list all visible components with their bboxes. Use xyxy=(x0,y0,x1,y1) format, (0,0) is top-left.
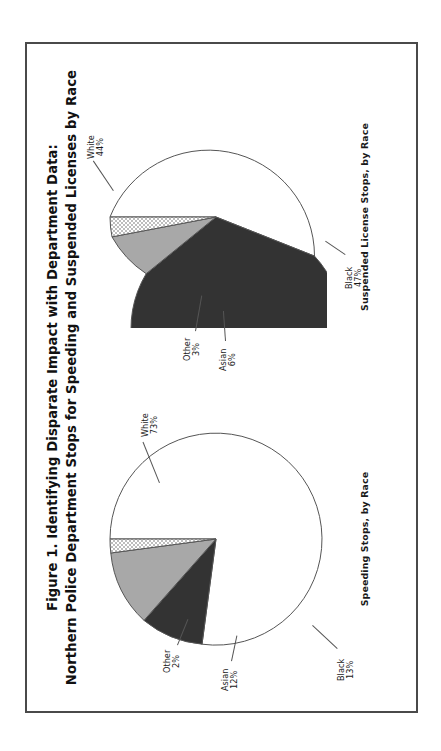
pie-chart-speeding xyxy=(105,428,327,650)
figure-title: Figure 1. Identifying Disparate Impact w… xyxy=(43,44,81,711)
pie-label-white-speeding: White 73% xyxy=(141,413,159,437)
pie-label-asian-suspended: Asian 6% xyxy=(219,349,237,371)
pie-label-asian-speeding: Asian 12% xyxy=(221,669,239,691)
figure-title-line-2: Northern Police Department Stops for Spe… xyxy=(62,44,81,711)
figure-content: Figure 1. Identifying Disparate Impact w… xyxy=(27,44,416,711)
figure-frame: Figure 1. Identifying Disparate Impact w… xyxy=(25,42,418,713)
chart-caption-speeding: Speeding Stops, by Race xyxy=(359,389,370,689)
chart-caption-suspended: Suspended License Stops, by Race xyxy=(359,67,370,367)
chart-suspended-license-stops: White 44% Black 47% Asian 6% Other 3% Su… xyxy=(101,67,401,367)
pie-label-black-speeding: Black 13% xyxy=(337,659,355,681)
figure-title-line-1: Figure 1. Identifying Disparate Impact w… xyxy=(43,44,62,711)
pie-label-white-suspended: White 44% xyxy=(87,135,105,159)
pie-label-other-speeding: Other 2% xyxy=(163,650,181,673)
pie-svg-speeding xyxy=(105,428,327,650)
pie-svg-suspended xyxy=(105,106,327,328)
leader-line-black-suspended xyxy=(325,241,345,255)
pie-chart-suspended xyxy=(105,106,327,328)
pie-label-other-suspended: Other 3% xyxy=(183,338,201,361)
chart-speeding-stops: White 73% Black 13% Asian 12% Other 2% S… xyxy=(101,389,401,689)
